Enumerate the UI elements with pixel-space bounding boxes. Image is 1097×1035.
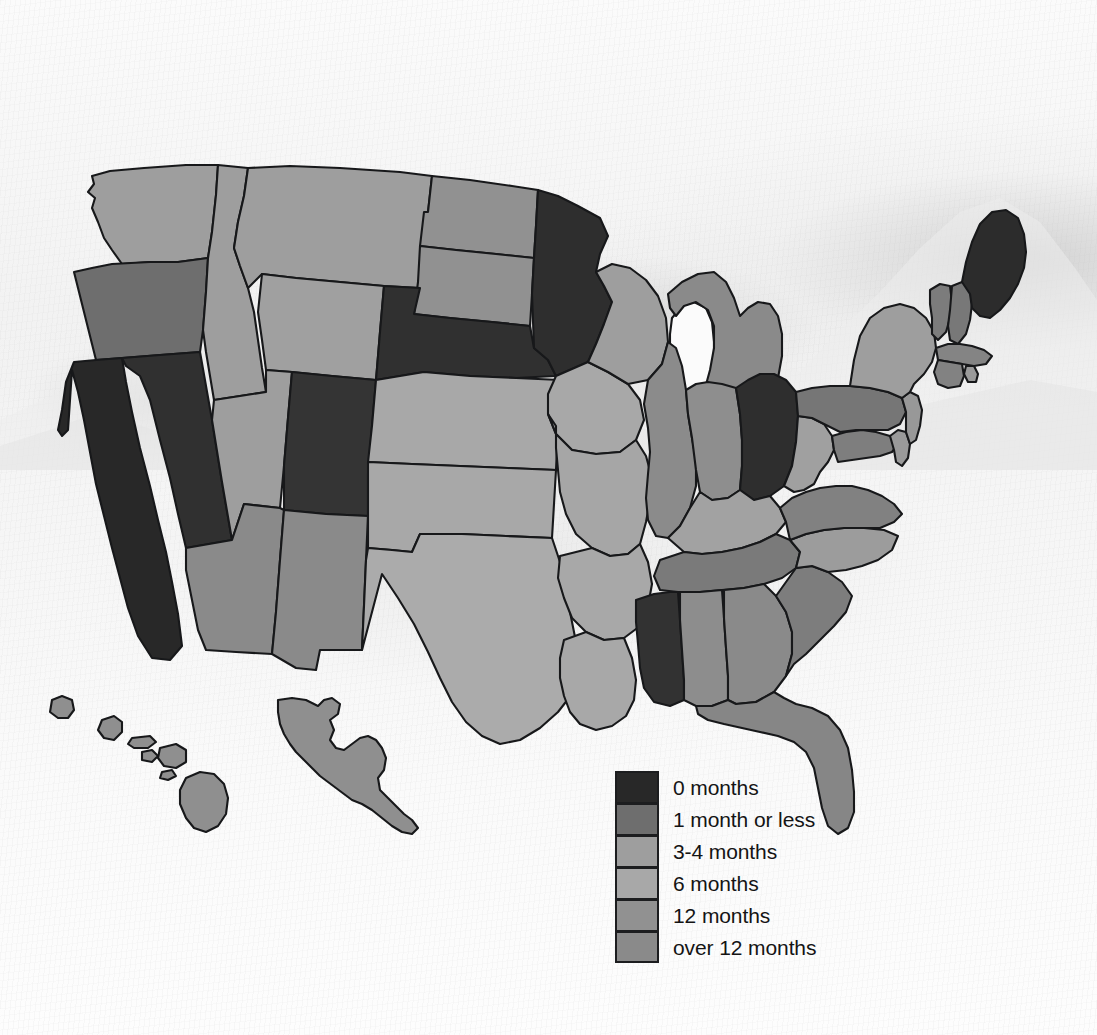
state-maryland[interactable]: [832, 430, 898, 462]
state-louisiana[interactable]: [560, 632, 636, 730]
state-mississippi[interactable]: [636, 592, 684, 706]
state-alabama[interactable]: [680, 590, 728, 706]
legend-row[interactable]: 1 month or less: [615, 803, 875, 835]
state-connecticut[interactable]: [934, 360, 964, 388]
legend-swatch-6-months: [615, 867, 659, 899]
legend-row[interactable]: 12 months: [615, 899, 875, 931]
legend-swatch-3-4-months: [615, 835, 659, 867]
state-rhode-island[interactable]: [964, 366, 978, 382]
state-hawaii-oahu[interactable]: [98, 716, 122, 740]
state-hawaii-maui[interactable]: [158, 744, 186, 768]
legend-row[interactable]: 3-4 months: [615, 835, 875, 867]
legend-label-3-4-months: 3-4 months: [673, 841, 777, 862]
state-colorado[interactable]: [284, 372, 376, 516]
map-page: 0 months 1 month or less 3-4 months 6 mo…: [0, 0, 1097, 1035]
state-washington[interactable]: [88, 165, 218, 264]
state-hawaii-big-island[interactable]: [180, 772, 228, 832]
map-legend: 0 months 1 month or less 3-4 months 6 mo…: [615, 771, 875, 963]
state-montana[interactable]: [234, 166, 432, 288]
state-south-dakota[interactable]: [414, 246, 534, 326]
state-hawaii-lanai[interactable]: [142, 750, 158, 762]
legend-row[interactable]: over 12 months: [615, 931, 875, 963]
state-new-mexico[interactable]: [272, 510, 368, 670]
state-kansas[interactable]: [368, 372, 560, 470]
state-hawaii-kauai[interactable]: [50, 696, 74, 718]
state-maine[interactable]: [962, 210, 1026, 318]
state-north-dakota[interactable]: [420, 176, 538, 258]
legend-label-1-month-or-less: 1 month or less: [673, 809, 815, 830]
legend-swatch-0-months: [615, 771, 659, 803]
state-new-york[interactable]: [850, 304, 936, 398]
legend-label-over-12-months: over 12 months: [673, 937, 816, 958]
legend-label-0-months: 0 months: [673, 777, 759, 798]
state-wyoming[interactable]: [258, 274, 384, 380]
legend-swatch-over-12-months: [615, 931, 659, 963]
state-hawaii-molokai[interactable]: [128, 736, 156, 748]
state-texas[interactable]: [362, 534, 584, 744]
legend-label-12-months: 12 months: [673, 905, 770, 926]
legend-swatch-1-month-or-less: [615, 803, 659, 835]
legend-row[interactable]: 0 months: [615, 771, 875, 803]
legend-swatch-12-months: [615, 899, 659, 931]
legend-row[interactable]: 6 months: [615, 867, 875, 899]
legend-label-6-months: 6 months: [673, 873, 759, 894]
us-choropleth-map: [0, 0, 1097, 1035]
state-hawaii-kahoolawe[interactable]: [160, 770, 176, 780]
state-alaska[interactable]: [278, 698, 418, 834]
state-oregon[interactable]: [74, 258, 208, 360]
